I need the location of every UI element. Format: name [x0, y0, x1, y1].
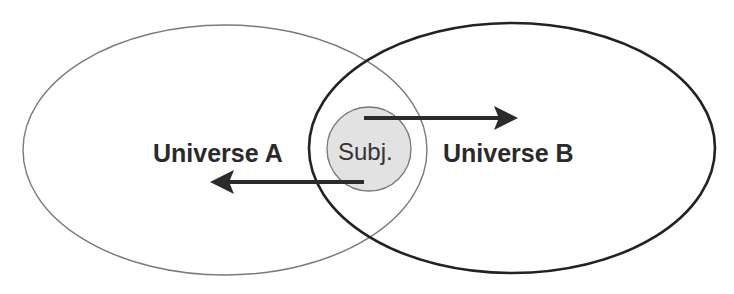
venn-diagram: Universe A Universe B Subj. [0, 0, 734, 294]
universe-a-label: Universe A [153, 139, 283, 167]
subject-label: Subj. [338, 138, 393, 165]
universe-b-label: Universe B [443, 139, 574, 167]
